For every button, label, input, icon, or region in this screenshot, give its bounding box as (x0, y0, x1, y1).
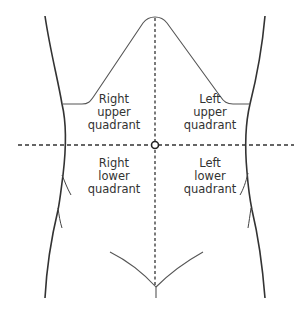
costal-margin (62, 17, 250, 104)
luq-line3: quadrant (175, 119, 245, 132)
inguinal-line-right (156, 252, 203, 287)
right-flank-crease-2 (248, 208, 251, 228)
inguinal-line-left (110, 252, 156, 287)
label-left-upper-quadrant: Left upper quadrant (175, 93, 245, 132)
left-flank-crease-1b (62, 175, 71, 195)
label-right-upper-quadrant: Right upper quadrant (79, 93, 149, 132)
label-right-lower-quadrant: Right lower quadrant (79, 157, 149, 196)
rlq-line3: quadrant (79, 183, 149, 196)
label-left-lower-quadrant: Left lower quadrant (175, 157, 245, 196)
abdomen-diagram (0, 0, 301, 315)
torso-left-outline (45, 16, 66, 298)
navel-icon (152, 142, 159, 149)
rul-line3: quadrant (79, 119, 149, 132)
llq-line3: quadrant (175, 183, 245, 196)
left-flank-crease-2 (58, 208, 62, 228)
torso-right-outline (246, 16, 265, 298)
